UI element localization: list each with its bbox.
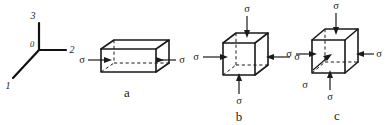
axis-1-line: [13, 50, 39, 78]
panel-b-stress-bottom-label: σ: [236, 95, 242, 106]
panel-c-stress-bottom-label: σ: [327, 91, 333, 102]
panel-c: σ σ σ σ σ: [286, 0, 382, 123]
panel-b-stress-bottom-arrow: [236, 73, 242, 94]
panel-b-cube: [223, 33, 268, 75]
axis-1-label: 1: [6, 80, 11, 91]
panel-c-cube: [312, 29, 358, 73]
stress-state-figure: 3 2 1 0: [0, 0, 385, 125]
panel-a-prism: [101, 40, 169, 72]
panel-a-stress-left-label: σ: [79, 54, 85, 65]
figure-canvas: 3 2 1 0: [0, 0, 385, 125]
panel-c-stress-left-label: σ: [286, 48, 292, 59]
panel-b-front-fill: [223, 43, 255, 75]
panel-b-stress-right-label: σ: [294, 51, 300, 62]
panel-c-caption: c: [334, 108, 340, 123]
axis-2-label: 2: [70, 44, 75, 55]
panel-b-stress-left-label: σ: [193, 51, 199, 62]
panel-c-stress-depth-label: σ: [302, 79, 308, 90]
panel-b-caption: b: [236, 109, 243, 124]
origin-label: 0: [30, 39, 35, 49]
panel-b: σ σ σ σ b: [193, 3, 300, 124]
panel-a-stress-right-label: σ: [179, 54, 185, 65]
coordinate-triad: 3 2 1 0: [6, 10, 75, 91]
panel-a-caption: a: [124, 85, 130, 100]
panel-c-stress-top-label: σ: [333, 0, 339, 11]
panel-b-stress-top-label: σ: [244, 3, 250, 14]
panel-a: σ σ a: [79, 40, 185, 100]
panel-c-stress-right-label: σ: [376, 48, 382, 59]
axis-3-label: 3: [30, 10, 36, 21]
